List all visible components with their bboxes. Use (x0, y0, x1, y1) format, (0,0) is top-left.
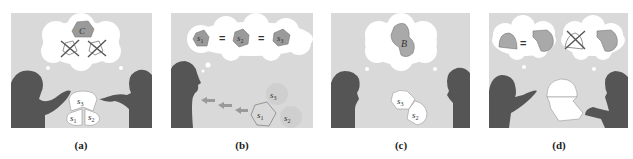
piece-s2-faded: s2 (280, 106, 302, 128)
panel-a-illustration: C s3 s1 s2 (11, 13, 152, 128)
piece-s2: s2 (85, 109, 100, 126)
svg-text:B: B (401, 38, 407, 49)
person-left-silhouette (331, 71, 360, 128)
piece-s3-faded: s3 (266, 83, 288, 105)
equals-sign: = (520, 37, 526, 49)
piece-s1: s1 (67, 109, 82, 126)
piece-s1: s1 (251, 102, 276, 126)
person-right-silhouette (99, 70, 152, 128)
panel-b-illustration: s1 = s2 = s3 s3 s1 s2 (171, 13, 313, 128)
panel-a: C s3 s1 s2 (11, 13, 152, 128)
panel-c-illustration: B s3 s2 (331, 13, 470, 128)
speech-arrows (201, 97, 248, 114)
equals-sign-1: = (219, 32, 225, 44)
person-silhouette (171, 61, 201, 128)
equals-sign-2: = (258, 32, 264, 44)
panel-d: = (489, 13, 628, 128)
panel-d-illustration: = (489, 13, 628, 128)
caption-c: (c) (381, 139, 421, 151)
person-right-silhouette (447, 68, 470, 128)
panel-b: s1 = s2 = s3 s3 s1 s2 (171, 13, 313, 128)
person-left-silhouette (489, 75, 537, 128)
caption-b: (b) (222, 139, 262, 151)
person-left-silhouette (11, 71, 71, 128)
caption-d: (d) (539, 139, 579, 151)
panel-c: B s3 s2 (331, 13, 470, 128)
piece-s3: s3 (69, 91, 97, 111)
svg-text:C: C (79, 26, 86, 36)
caption-a: (a) (61, 139, 101, 151)
combined-piece (547, 79, 583, 121)
person-right-silhouette (585, 71, 628, 128)
